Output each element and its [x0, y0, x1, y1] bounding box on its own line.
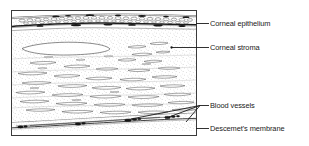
- specimen-drawing: [12, 14, 196, 131]
- label-corneal-stroma: Corneal stroma: [210, 43, 260, 52]
- label-corneal-epithelium: Corneal epithelium: [210, 19, 270, 28]
- label-descemets-membrane: Descemet's membrane: [210, 124, 285, 133]
- label-blood-vessels: Blood vessels: [210, 101, 255, 110]
- leader-dot-corneal-stroma: [170, 46, 172, 48]
